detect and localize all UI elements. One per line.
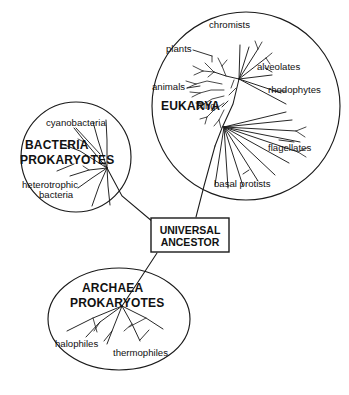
bacteria-prokaryotes-label: PROKARYOTES bbox=[20, 154, 114, 167]
plants-leader bbox=[193, 50, 212, 56]
eukarya-left-b8-fork bbox=[214, 120, 221, 128]
group-label-basal-protists: basal protists bbox=[214, 179, 271, 189]
archaea-ray-4 bbox=[122, 306, 140, 341]
eukarya-left-b5-fork bbox=[190, 92, 200, 97]
trunk-to-eukarya bbox=[196, 146, 215, 217]
thermophiles-leader bbox=[140, 330, 149, 340]
archaea-ray-2 bbox=[86, 306, 122, 337]
group-label-flagellates: flagellates bbox=[268, 143, 311, 153]
eukarya-left-b9 bbox=[231, 80, 234, 88]
universal-ancestor-line2: ANCESTOR bbox=[151, 236, 229, 248]
group-label-alveolates: alveolates bbox=[257, 62, 300, 72]
group-label-halophiles: halophiles bbox=[55, 339, 98, 349]
archaea-domain-label: ARCHAEA bbox=[82, 282, 143, 295]
group-label-fungi: fungi bbox=[197, 101, 218, 111]
eukarya-left-b1-fork bbox=[218, 58, 227, 66]
tree-of-life-diagram: EUKARYA chromists plants animals fungi a… bbox=[0, 0, 349, 395]
group-label-plants: plants bbox=[166, 44, 192, 54]
archaea-prokaryotes-label: PROKARYOTES bbox=[70, 297, 164, 310]
eukarya-left-b3 bbox=[203, 71, 214, 72]
eukarya-left-b2-fork bbox=[205, 63, 214, 77]
universal-ancestor-line1: UNIVERSAL bbox=[151, 224, 229, 236]
trunk-to-bacteria bbox=[107, 168, 153, 222]
group-label-animals: animals bbox=[152, 82, 185, 92]
basal-protists-leader bbox=[243, 170, 249, 174]
eukarya-left-main bbox=[214, 72, 239, 79]
eukarya-left-b7-fork bbox=[200, 117, 207, 124]
eukarya-left-b3-fork bbox=[193, 66, 203, 75]
eukarya-left-b4 bbox=[196, 81, 222, 84]
group-label-cyanobacteria: cyanobacteria bbox=[46, 118, 106, 128]
halophiles-leader bbox=[104, 331, 112, 341]
group-label-rhodophytes: rhodophytes bbox=[268, 85, 321, 95]
eukarya-left-b5 bbox=[200, 90, 224, 93]
group-label-thermophiles: thermophiles bbox=[113, 348, 168, 358]
bacteria-domain-label: BACTERIA bbox=[25, 139, 89, 152]
bacteria-ray-7 bbox=[92, 168, 107, 206]
group-label-heterotrophic-2: bacteria bbox=[39, 190, 73, 200]
eukarya-upper-ray-7 bbox=[239, 45, 240, 79]
archaea-ray-4-fork bbox=[124, 324, 132, 331]
eukarya-ray-3-fork bbox=[296, 127, 306, 137]
eukarya-upper-ray-5-fork bbox=[255, 41, 262, 49]
eukarya-upper-ray-6 bbox=[239, 47, 249, 79]
eukarya-ray-1 bbox=[224, 112, 286, 127]
group-label-chromists: chromists bbox=[209, 20, 250, 30]
eukarya-ray-2 bbox=[224, 120, 292, 127]
eukarya-upper-ray-5 bbox=[239, 49, 258, 79]
